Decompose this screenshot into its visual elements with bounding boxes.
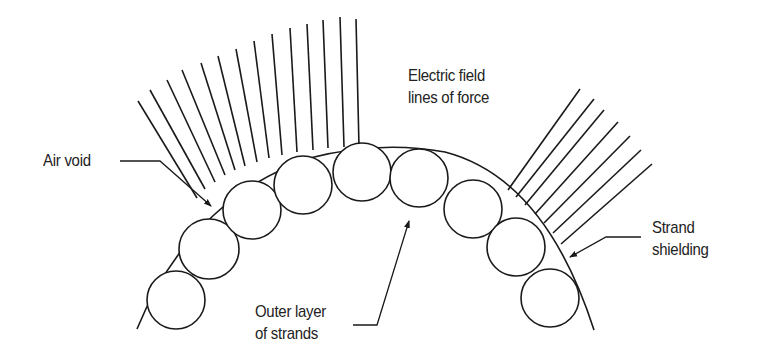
strand-shielding-line2: shielding: [652, 239, 709, 261]
strand-shielding-leader: [570, 237, 641, 257]
air-void-text: Air void: [43, 150, 91, 172]
strand-1: [147, 271, 205, 329]
strand-shielding-label: Strand shielding: [652, 217, 709, 261]
strand-6: [390, 149, 448, 207]
cable-strand-diagram: [0, 0, 758, 359]
electric-field-label: Electric field lines of force: [408, 65, 489, 109]
outer-layer-line1: Outer layer: [255, 301, 326, 323]
strand-3: [223, 181, 281, 239]
air-void-leader: [120, 161, 211, 206]
strand-5: [333, 143, 391, 201]
strand-4: [274, 156, 332, 214]
outer-layer-line2: of strands: [255, 323, 326, 345]
strand-9: [521, 269, 579, 327]
outer-layer-leader: [353, 221, 409, 325]
strand-8: [487, 218, 545, 276]
electric-field-line1: Electric field: [408, 65, 489, 87]
air-void-label: Air void: [43, 150, 91, 172]
outer-layer-label: Outer layer of strands: [255, 301, 326, 345]
outer-layer-strands: [147, 143, 579, 329]
electric-field-line2: lines of force: [408, 87, 489, 109]
strand-shielding-line1: Strand: [652, 217, 709, 239]
